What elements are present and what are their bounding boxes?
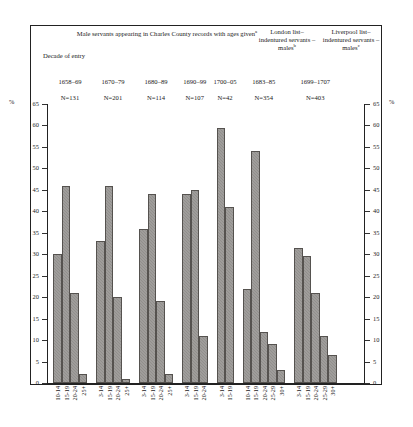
x-tick-label: 15-19 [63,386,70,400]
y-tick-right [365,125,370,126]
y-tick-left [42,147,47,148]
x-tick-label: 15-19 [226,386,233,400]
y-tick-label-right: 60 [373,121,389,128]
plot-area [47,104,365,383]
x-tick-label: 25+ [123,386,130,396]
y-tick-label-left: 0 [23,379,39,386]
y-tick-label-right: 5 [373,358,389,365]
y-tick-left [42,340,47,341]
y-tick-left [42,125,47,126]
y-tick-label-left: 50 [23,164,39,171]
bar [105,186,114,383]
y-tick-label-right: 65 [373,100,389,107]
chart-figure: Male servants appearing in Charles Count… [0,0,413,427]
bar [320,336,329,383]
x-tick-label: 30+ [278,386,285,396]
x-tick-label: 20-24 [157,386,164,400]
bar [96,241,105,383]
x-tick-label: 3-14 [140,386,147,397]
y-tick-right [365,190,370,191]
bar [53,254,62,383]
y-tick-left [42,254,47,255]
x-tick-label: 25-29 [269,386,276,400]
header-london-title: London list– indentured servants – males… [256,28,318,53]
bar [303,256,312,383]
percent-symbol-left: % [9,98,14,105]
x-tick-label: 20-24 [114,386,121,400]
bar [70,293,79,383]
x-tick-label: 15-19 [252,386,259,400]
bar [251,151,260,383]
y-tick-label-left: 40 [23,207,39,214]
group-n-label: N=354 [236,94,292,101]
y-tick-left [42,319,47,320]
x-tick-label: 25-29 [321,386,328,400]
y-tick-label-left: 35 [23,229,39,236]
y-tick-right [365,104,370,105]
bar [62,186,71,383]
y-tick-right [365,319,370,320]
y-tick-label-right: 55 [373,143,389,150]
bar [243,289,252,383]
y-tick-right [365,168,370,169]
header-liverpool-note: c [358,43,360,48]
y-tick-label-right: 35 [373,229,389,236]
y-tick-label-left: 25 [23,272,39,279]
y-tick-label-left: 30 [23,250,39,257]
x-tick-label: 20-24 [261,386,268,400]
header-main-title-text: Male servants appearing in Charles Count… [77,30,255,37]
bar [294,248,303,383]
y-tick-right [365,211,370,212]
x-tick-label: 3-14 [97,386,104,397]
y-tick-right [365,276,370,277]
y-tick-label-left: 20 [23,293,39,300]
x-tick-label: 10-14 [54,386,61,400]
bar [191,190,200,383]
y-tick-left [42,276,47,277]
group-decade-label: 1683–85 [236,78,292,85]
group-n-label: N=403 [287,94,343,101]
header-liverpool-title: Liverpool list– indentured servants – ma… [319,28,383,53]
bar [122,379,131,383]
y-tick-left [42,233,47,234]
bar [328,355,337,383]
y-tick-label-left: 55 [23,143,39,150]
x-tick-label: 3-14 [295,386,302,397]
y-tick-label-right: 0 [373,379,389,386]
y-tick-label-left: 65 [23,100,39,107]
x-tick-label: 15-19 [192,386,199,400]
y-tick-label-right: 40 [373,207,389,214]
x-axis-line [47,383,365,384]
bar [260,332,269,384]
y-tick-label-right: 20 [373,293,389,300]
header-main-title: Male servants appearing in Charles Count… [67,30,267,38]
y-axis-line-right [364,104,365,383]
y-tick-left [42,104,47,105]
y-tick-left [42,211,47,212]
y-tick-right [365,297,370,298]
y-tick-right [365,362,370,363]
y-tick-label-left: 5 [23,358,39,365]
bar [79,374,88,383]
x-tick-label: 20-24 [312,386,319,400]
bar [156,301,165,383]
y-tick-label-left: 15 [23,315,39,322]
bar [113,297,122,383]
percent-symbol-right: % [389,98,394,105]
x-tick-label: 3-14 [218,386,225,397]
bar [311,293,320,383]
y-tick-label-left: 60 [23,121,39,128]
x-tick-label: 25+ [80,386,87,396]
y-axis-line-left [47,104,48,383]
y-tick-label-right: 10 [373,336,389,343]
x-tick-label: 30+ [329,386,336,396]
y-tick-right [365,340,370,341]
x-tick-label: 15-19 [149,386,156,400]
y-tick-label-right: 45 [373,186,389,193]
bar [277,370,286,383]
y-tick-left [42,190,47,191]
bar [199,336,208,383]
y-tick-left [42,362,47,363]
figure-header: Male servants appearing in Charles Count… [31,26,381,104]
y-tick-right [365,147,370,148]
